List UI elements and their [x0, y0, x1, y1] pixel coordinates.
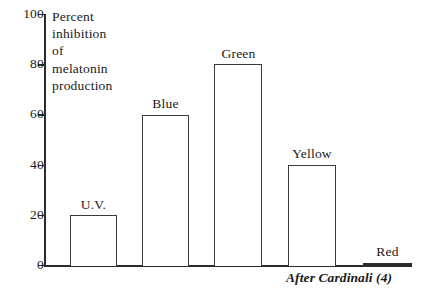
y-tick-label-40: 40 — [10, 158, 44, 172]
bar-yellow — [288, 165, 336, 266]
y-axis-line — [44, 14, 46, 266]
bar-uv — [70, 215, 117, 266]
bar-blue — [142, 115, 189, 267]
bar-label-uv: U.V. — [60, 198, 127, 212]
y-tick-label-100: 100 — [10, 7, 44, 21]
bar-green — [214, 64, 262, 266]
attribution-note: After Cardinali (4) — [286, 270, 392, 286]
y-axis-caption: Percent inhibition of melatonin producti… — [52, 8, 113, 94]
bar-label-yellow: Yellow — [278, 147, 346, 161]
y-tick-label-80: 80 — [10, 57, 44, 71]
y-tick-label-0: 0 — [10, 258, 44, 272]
bar-red — [363, 263, 412, 266]
y-tick-label-20: 20 — [10, 208, 44, 222]
bar-label-blue: Blue — [132, 97, 199, 111]
y-tick-label-60: 60 — [10, 107, 44, 121]
bar-chart-figure: 100 80 60 40 20 0 Percent inhibition of … — [0, 0, 425, 293]
bar-label-green: Green — [205, 47, 272, 61]
plot-area: 100 80 60 40 20 0 Percent inhibition of … — [0, 0, 425, 293]
bar-label-red: Red — [354, 245, 421, 259]
